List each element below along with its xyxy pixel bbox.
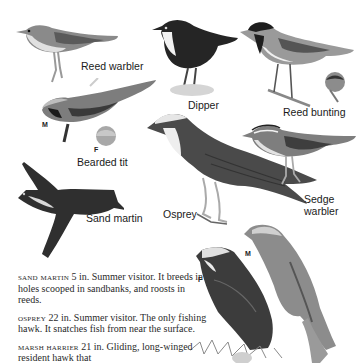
marsh-harrier-illustration	[190, 222, 350, 363]
description-osprey: osprey 22 in. Summer visitor. The only f…	[18, 312, 208, 335]
label-sedge-warbler-line1: Sedge	[304, 193, 334, 205]
label-reed-warbler: Reed warbler	[81, 60, 143, 72]
label-osprey: Osprey	[163, 208, 197, 220]
bearded-tit-female-marker: F	[94, 146, 98, 153]
species-name: sand martin	[18, 271, 69, 282]
dipper-illustration	[150, 16, 242, 98]
species-name: marsh harrier	[18, 341, 79, 352]
reed-warbler-illustration	[14, 18, 124, 86]
reed-bunting-illustration	[238, 18, 360, 108]
description-marsh-harrier: marsh harrier 21 in. Gliding, long-winge…	[18, 341, 208, 363]
bearded-tit-male-marker: M	[42, 121, 48, 128]
label-sand-martin: Sand martin	[86, 212, 143, 224]
species-name: osprey	[18, 312, 46, 323]
species-text: 22 in. Summer visitor. The only fishing …	[18, 312, 206, 335]
species-descriptions: sand martin 5 in. Summer visitor. It bre…	[18, 271, 208, 363]
bearded-tit-illustration	[38, 78, 160, 152]
sedge-warbler-illustration	[240, 120, 360, 186]
marsh-harrier-male-marker: M	[245, 250, 251, 257]
label-sedge-warbler-line2: warbler	[304, 205, 338, 217]
description-sand-martin: sand martin 5 in. Summer visitor. It bre…	[18, 271, 208, 306]
